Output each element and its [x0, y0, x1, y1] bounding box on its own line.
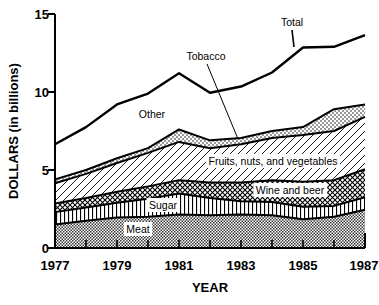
x-tick-label-1985: 1985	[289, 258, 318, 273]
y-tick-label-0: 0	[42, 241, 49, 256]
total-leader-line	[292, 30, 294, 47]
x-tick-label-1981: 1981	[165, 258, 194, 273]
x-tick-label-1987: 1987	[350, 258, 379, 273]
series-label-fruits: Fruits, nuts, and vegetables	[209, 155, 338, 167]
series-label-total: Total	[281, 16, 303, 28]
series-label-sugar: Sugar	[149, 199, 178, 211]
y-ticks-group	[48, 14, 55, 248]
y-axis-title: DOLLARS (in billions)	[6, 63, 21, 199]
x-tick-label-1977: 1977	[41, 258, 70, 273]
y-tick-label-10: 10	[35, 85, 49, 100]
series-label-tobacco: Tobacco	[186, 50, 225, 62]
y-tick-label-5: 5	[42, 163, 49, 178]
x-axis-title: YEAR	[192, 280, 229, 295]
x-tick-label-1983: 1983	[227, 258, 256, 273]
stacked-area-chart: 15 10 5 0 1977 1979 1981 1983 1985 1987 …	[0, 0, 379, 305]
series-label-meat: Meat	[126, 223, 149, 235]
plot-area	[55, 35, 365, 248]
x-tick-label-1979: 1979	[103, 258, 132, 273]
figure-container: 15 10 5 0 1977 1979 1981 1983 1985 1987 …	[0, 0, 379, 305]
y-tick-label-15: 15	[35, 7, 49, 22]
series-label-other: Other	[139, 108, 166, 120]
series-label-wine-beer: Wine and beer	[256, 184, 325, 196]
